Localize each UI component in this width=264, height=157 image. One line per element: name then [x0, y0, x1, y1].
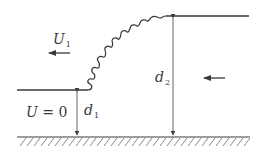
d2-symbol: d — [155, 69, 164, 85]
hydraulic-jump-diagram — [0, 0, 264, 157]
d1-symbol: d — [84, 102, 93, 118]
label-d2: d2 — [155, 70, 170, 87]
u1-subscript: 1 — [66, 40, 71, 49]
label-u1: U1 — [53, 32, 71, 49]
u1-symbol: U — [53, 31, 65, 47]
d2-subscript: 2 — [165, 78, 170, 87]
label-d1: d1 — [84, 103, 99, 120]
bed-hatching — [20, 138, 250, 146]
d1-subscript: 1 — [94, 111, 99, 120]
label-still-water: U = 0 — [26, 105, 67, 119]
u-symbol: U — [26, 104, 38, 120]
u-relation: = 0 — [42, 104, 67, 120]
